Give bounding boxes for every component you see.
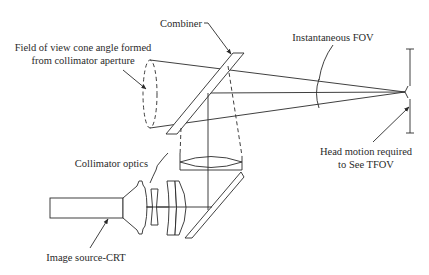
label-head-motion-line1: Head motion required xyxy=(320,146,413,157)
combiner-leader-arrow xyxy=(204,23,231,54)
collimator-lens-group xyxy=(151,181,186,235)
beam-edge-right-dashed xyxy=(228,66,242,156)
collimator-optics-leader xyxy=(150,153,168,183)
beam-edge-left-dashed xyxy=(180,128,181,156)
label-head-motion-line2: to See TFOV xyxy=(338,159,394,170)
biconvex-lens xyxy=(175,181,186,235)
label-combiner: Combiner xyxy=(160,18,202,29)
aperture-cone-ellipse xyxy=(143,60,157,128)
hud-optics-diagram: Combiner Field of view cone angle formed… xyxy=(0,0,429,275)
head-motion-range-bar xyxy=(406,49,414,133)
image-source-crt xyxy=(50,181,147,234)
upper-ray xyxy=(150,60,405,92)
label-fov-cone-line2: from collimator aperture xyxy=(31,55,135,66)
combiner-plate xyxy=(166,53,244,134)
label-instantaneous-fov: Instantaneous FOV xyxy=(292,32,374,43)
ifov-angle-arc xyxy=(317,79,320,108)
field-lens xyxy=(180,153,242,170)
fov-cone-leader-arrow xyxy=(123,70,146,89)
label-fov-cone-line1: Field of view cone angle formed xyxy=(15,42,152,53)
fold-mirror xyxy=(185,172,244,238)
head-motion-leader-arrow xyxy=(373,107,409,142)
chief-ray xyxy=(208,92,405,93)
eye-icon xyxy=(405,86,408,98)
image-source-leader-arrow xyxy=(90,219,108,248)
meniscus-lens xyxy=(167,181,177,235)
label-image-source-crt: Image source-CRT xyxy=(46,252,126,263)
label-collimator-optics: Collimator optics xyxy=(75,158,148,169)
ifov-leader xyxy=(319,45,333,80)
